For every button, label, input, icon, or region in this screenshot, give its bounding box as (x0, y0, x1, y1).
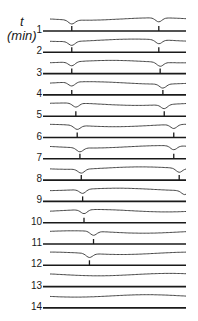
trace-line (50, 146, 186, 152)
trace-line (50, 39, 186, 45)
trace-line (50, 60, 186, 66)
trace-line (50, 167, 186, 173)
trace-line (50, 231, 186, 236)
trace-plot (0, 0, 198, 321)
trace-line (50, 82, 186, 88)
trace-line (50, 103, 186, 109)
trace-line (50, 252, 186, 257)
trace-line (50, 188, 186, 194)
trace-line (50, 124, 186, 129)
trace-line (50, 273, 186, 275)
trace-line (50, 295, 186, 297)
trace-line (50, 210, 186, 214)
trace-line (50, 18, 186, 24)
